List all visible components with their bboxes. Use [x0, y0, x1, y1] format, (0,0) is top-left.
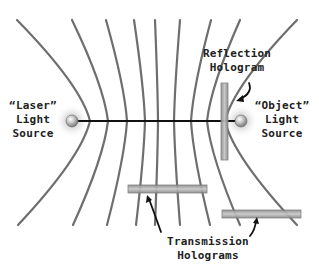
laser-source-label: “Laser” Light Source: [2, 99, 64, 141]
laser-source-sphere: [66, 115, 78, 127]
fringe-line: [106, 20, 127, 225]
reflection-label-line-2: Hologram: [196, 61, 278, 75]
laser-label-line-3: Source: [2, 127, 64, 141]
fringe-line: [134, 20, 145, 225]
object-label-line-3: Source: [246, 127, 318, 141]
transmission-arrowhead-1-icon: [146, 195, 152, 203]
transmission-hologram-1: [128, 185, 207, 193]
reflection-label-line-1: Reflection: [196, 47, 278, 61]
reflection-hologram: [221, 83, 228, 160]
transmission-hologram-2: [222, 210, 301, 218]
reflection-arrowhead-icon: [236, 95, 244, 102]
object-label-line-2: Light: [246, 113, 318, 127]
hologram-diagram: “Laser” Light Source “Object” Light Sour…: [0, 0, 319, 270]
object-source-label: “Object” Light Source: [246, 99, 318, 141]
laser-label-line-2: Light: [2, 113, 64, 127]
object-label-line-1: “Object”: [246, 99, 318, 113]
transmission-holograms-label: Transmission Holograms: [158, 235, 258, 263]
laser-label-line-1: “Laser”: [2, 99, 64, 113]
transmission-label-line-2: Holograms: [158, 249, 258, 263]
fringe-line: [155, 20, 158, 225]
reflection-hologram-label: Reflection Hologram: [196, 47, 278, 75]
fringe-line: [174, 20, 180, 225]
transmission-label-line-1: Transmission: [158, 235, 258, 249]
